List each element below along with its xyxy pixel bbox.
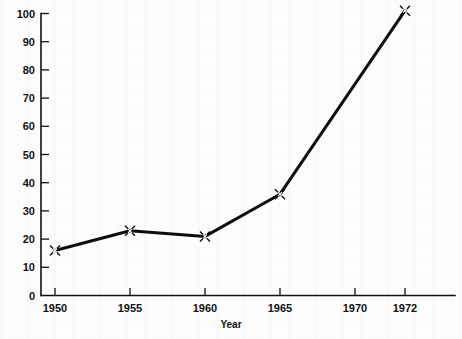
x-axis-title: Year <box>220 319 241 330</box>
y-tick-label: 30 <box>23 205 35 217</box>
x-axis-ticks <box>55 288 405 296</box>
x-tick-label: 1970 <box>343 302 367 314</box>
y-tick-label: 40 <box>23 177 35 189</box>
data-series-line <box>55 11 405 251</box>
data-point-marker <box>400 6 410 16</box>
y-tick-label: 80 <box>23 64 35 76</box>
y-tick-label: 70 <box>23 92 35 104</box>
y-tick-label: 10 <box>23 261 35 273</box>
y-tick-label: 90 <box>23 36 35 48</box>
y-axis-ticks <box>41 14 49 268</box>
y-tick-label: 0 <box>29 290 35 302</box>
data-point-marker <box>275 189 285 199</box>
x-tick-label: 1950 <box>43 302 67 314</box>
y-axis-tick-labels: 100 90 80 70 60 50 40 30 20 10 0 <box>17 8 35 302</box>
line-chart: 100 90 80 70 60 50 40 30 20 10 0 1950 19… <box>0 0 462 339</box>
data-point-markers <box>50 6 410 256</box>
chart-figure: 100 90 80 70 60 50 40 30 20 10 0 1950 19… <box>0 0 462 339</box>
x-tick-label: 1960 <box>193 302 217 314</box>
y-tick-label: 20 <box>23 233 35 245</box>
x-tick-label: 1972 <box>393 302 417 314</box>
y-tick-label: 60 <box>23 120 35 132</box>
x-tick-label: 1955 <box>118 302 142 314</box>
x-tick-label: 1965 <box>268 302 292 314</box>
x-axis-tick-labels: 1950 1955 1960 1965 1970 1972 <box>43 302 417 314</box>
y-tick-label: 50 <box>23 149 35 161</box>
y-tick-label: 100 <box>17 8 35 20</box>
